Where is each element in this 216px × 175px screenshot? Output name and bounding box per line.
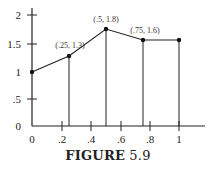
caption-word: FIGURE <box>65 148 125 163</box>
y-tick-label: 2 <box>16 9 22 21</box>
y-tick-label: 0 <box>16 120 22 132</box>
x-tick-label: .6 <box>117 133 126 145</box>
x-tick-label: 0 <box>29 133 35 145</box>
y-tick-label: .5 <box>13 93 22 105</box>
x-tick-label: .8 <box>146 133 155 145</box>
point-label: (.75, 1.6) <box>130 26 160 35</box>
y-tick-label: 1.5 <box>7 38 21 50</box>
y-tick-label: 1 <box>16 66 22 78</box>
point-label: (.25, 1.3) <box>55 41 85 50</box>
x-tick-label: .2 <box>58 133 66 145</box>
x-tick-label: .4 <box>87 133 96 145</box>
point-label: (.5, 1.8) <box>93 15 119 24</box>
figure-caption: FIGURE 5.9 <box>0 148 216 163</box>
caption-number: 5.9 <box>129 148 150 163</box>
x-tick-label: 1 <box>176 133 182 145</box>
